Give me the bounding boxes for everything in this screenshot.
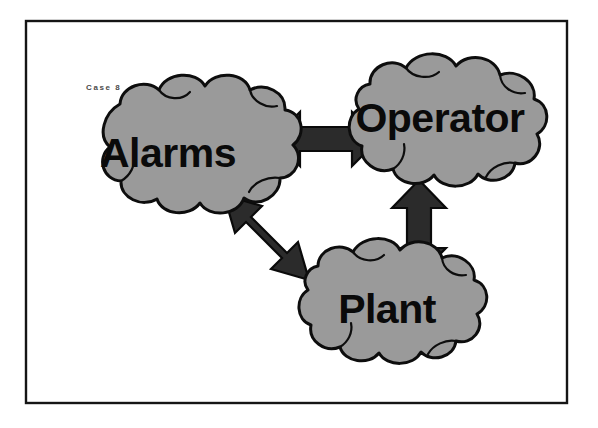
slide-canvas: Alarms Operator Plant Case 8 (0, 0, 598, 428)
case-label: Case 8 (86, 83, 121, 92)
alarms-label: Alarms (100, 130, 236, 176)
operator-label: Operator (355, 95, 525, 141)
plant-label: Plant (338, 286, 437, 332)
node-plant[interactable]: Plant (299, 239, 487, 364)
node-alarms[interactable]: Alarms (100, 75, 301, 213)
cloud-relationship-diagram: Alarms Operator Plant Case 8 (0, 0, 598, 428)
node-operator[interactable]: Operator (349, 54, 547, 186)
